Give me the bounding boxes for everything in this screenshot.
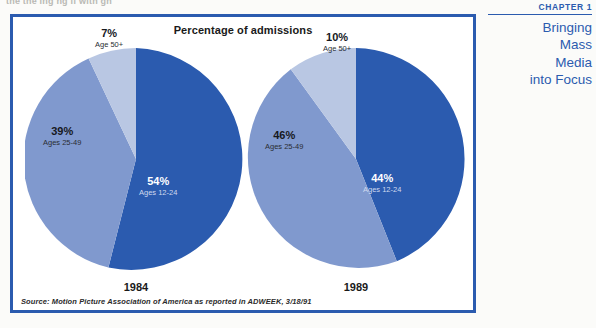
pie-1984-label-age-50-plus: 7% Age 50+ [95, 27, 123, 49]
pie-1984-age-ages-12-24: Ages 12-24 [139, 189, 177, 198]
pie-1984-pct-ages-25-49: 39% [43, 125, 81, 138]
pie-1984-age-age-50-plus: Age 50+ [95, 41, 123, 50]
pie-1984-svg [25, 39, 247, 279]
figure-box: Percentage of admissions 1984 54% Ages 1… [10, 14, 476, 313]
pie-1989-label-ages-25-49: 46% Ages 25-49 [265, 129, 303, 151]
pie-chart-1984: 1984 [25, 39, 247, 293]
chapter-number-kicker: CHAPTER 1 [488, 2, 592, 14]
chapter-title-line-1: Bringing [488, 19, 592, 36]
figure-source-note: Source: Motion Picture Association of Am… [21, 297, 312, 306]
pie-1984-label-ages-25-49: 39% Ages 25-49 [43, 125, 81, 147]
pie-1984-age-ages-25-49: Ages 25-49 [43, 139, 81, 148]
chapter-divider-rule [488, 14, 592, 15]
pie-1989-label-age-50-plus: 10% Age 50+ [323, 31, 351, 53]
pie-1984-label-ages-12-24: 54% Ages 12-24 [139, 175, 177, 197]
pie-1989-age-ages-12-24: Ages 12-24 [363, 186, 401, 195]
chapter-title-line-3: Media [488, 54, 592, 71]
chapter-title-line-2: Mass [488, 36, 592, 53]
pie-1989-age-age-50-plus: Age 50+ [323, 45, 351, 54]
pie-1989-pct-ages-25-49: 46% [265, 129, 303, 142]
cropped-body-text: the the ing ng lf with gh [6, 0, 206, 8]
pie-chart-1989: 1989 [245, 39, 467, 293]
pie-1984-pct-ages-12-24: 54% [139, 175, 177, 188]
scanned-page: the the ing ng lf with gh Percentage of … [0, 0, 596, 328]
chapter-sidebar: CHAPTER 1 Bringing Mass Media into Focus [488, 2, 592, 88]
pie-1984-pct-age-50-plus: 7% [95, 27, 123, 40]
pie-1989-label-ages-12-24: 44% Ages 12-24 [363, 172, 401, 194]
figure-title: Percentage of admissions [13, 24, 473, 36]
pie-1984-year-label: 1984 [25, 281, 247, 293]
pie-1989-age-ages-25-49: Ages 25-49 [265, 143, 303, 152]
chapter-title-line-4: into Focus [488, 71, 592, 88]
pie-1989-pct-age-50-plus: 10% [323, 31, 351, 44]
pie-1989-year-label: 1989 [245, 281, 467, 293]
pie-1989-svg [245, 39, 467, 279]
pie-1989-pct-ages-12-24: 44% [363, 172, 401, 185]
